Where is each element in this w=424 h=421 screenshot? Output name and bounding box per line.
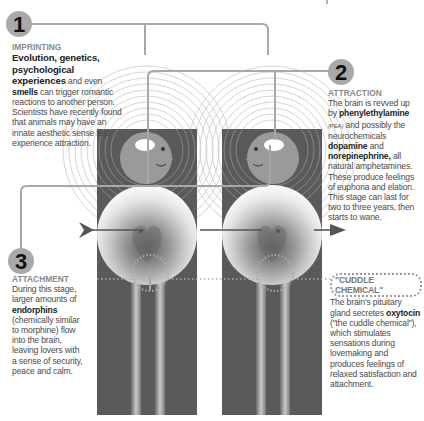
arrowhead-icon bbox=[330, 224, 346, 236]
right-brain-spot bbox=[264, 139, 284, 151]
cuddle-chemical-title: "CUDDLE CHEMICAL" bbox=[330, 273, 422, 297]
stage-2-text: ATTRACTION The brain is revved up by phe… bbox=[328, 88, 420, 223]
cuddle-chemical-text: "CUDDLE CHEMICAL" The brain's pituitary … bbox=[330, 273, 422, 389]
right-figure-panel bbox=[212, 90, 332, 415]
stage-3-text: ATTACHMENT During this stage, larger amo… bbox=[12, 274, 84, 376]
stage-2-badge: 2 bbox=[328, 59, 354, 85]
stage-1-badge: 1 bbox=[6, 11, 32, 37]
arrow-fletching-icon bbox=[79, 222, 94, 238]
stage-3-badge: 3 bbox=[8, 248, 34, 274]
stage-2-title: ATTRACTION bbox=[328, 88, 420, 98]
stage-1-title: IMPRINTING bbox=[12, 42, 122, 52]
stage-3-title: ATTACHMENT bbox=[12, 274, 84, 284]
left-brain-spot bbox=[135, 139, 155, 151]
stage-1-text: IMPRINTING Evolution, genetics, psycholo… bbox=[12, 42, 122, 148]
